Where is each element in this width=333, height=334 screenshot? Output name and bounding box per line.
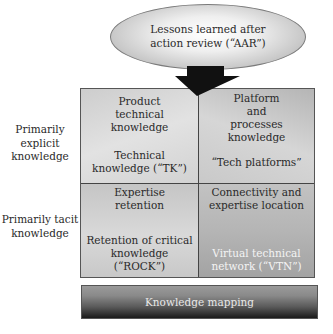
cell-expertise-retention: Expertise retention Retention of critica… bbox=[81, 184, 199, 277]
cell-title: Platform and processes knowledge bbox=[199, 92, 314, 144]
cell-product-technical-knowledge: Product technical knowledge Technical kn… bbox=[81, 89, 199, 184]
cell-program: Virtual technical network (“VTN”) bbox=[199, 247, 314, 273]
cell-platform-processes-knowledge: Platform and processes knowledge “Tech p… bbox=[199, 89, 314, 184]
cell-title: Connectivity and expertise location bbox=[199, 186, 314, 212]
knowledge-mapping-bar: Knowledge mapping bbox=[81, 285, 318, 319]
cell-title: Product technical knowledge bbox=[81, 95, 198, 134]
down-arrow-icon bbox=[175, 66, 241, 96]
cell-program: Technical knowledge (“TK”) bbox=[81, 149, 198, 175]
knowledge-mapping-label: Knowledge mapping bbox=[145, 296, 254, 308]
cell-program: “Tech platforms” bbox=[199, 156, 314, 169]
aar-label: Lessons learned after action review (“AA… bbox=[148, 22, 268, 50]
knowledge-matrix: Product technical knowledge Technical kn… bbox=[80, 88, 315, 278]
cell-connectivity-expertise-location: Connectivity and expertise location Virt… bbox=[199, 184, 314, 277]
row-label-tacit: Primarily tacit knowledge bbox=[0, 213, 80, 240]
cell-program: Retention of critical knowledge (“ROCK”) bbox=[81, 234, 198, 273]
row-label-explicit: Primarily explicit knowledge bbox=[0, 123, 80, 164]
cell-title: Expertise retention bbox=[81, 186, 198, 212]
aar-ellipse-node: Lessons learned after action review (“AA… bbox=[110, 4, 306, 70]
